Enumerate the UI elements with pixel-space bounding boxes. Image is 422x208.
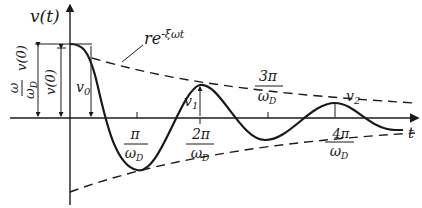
x-axis-label: t: [408, 124, 415, 142]
tick-label-pi: π ωD: [124, 126, 148, 163]
svg-text:2π: 2π: [191, 126, 211, 142]
damped-vibration-diagram: v(t) t re-ξωt ω ωD v(0) v(0) v0 v1 v2 π …: [0, 0, 422, 208]
v2-label: v2: [346, 88, 360, 106]
svg-text:v(0): v(0): [14, 45, 29, 71]
y-axis-label: v(t): [30, 6, 60, 26]
svg-text:4π: 4π: [332, 126, 350, 141]
svg-text:ω: ω: [6, 82, 21, 93]
svg-text:ωD: ωD: [125, 145, 144, 163]
outer-amplitude-label: ω ωD v(0): [6, 45, 39, 99]
svg-text:v(0): v(0): [43, 69, 58, 95]
tick-label-2pi: 2π ωD: [186, 126, 214, 163]
tick-label-4pi: 4π ωD: [325, 126, 354, 161]
svg-text:ωD: ωD: [191, 145, 210, 163]
envelope-label: re-ξωt: [144, 28, 185, 48]
lower-envelope: [70, 133, 415, 192]
svg-text:ωD: ωD: [330, 143, 349, 161]
svg-text:3π: 3π: [259, 68, 278, 84]
svg-text:π: π: [129, 126, 140, 142]
v0-label: v0: [76, 79, 91, 97]
tick-label-3pi: 3π ωD: [255, 68, 283, 106]
svg-text:ωD: ωD: [22, 81, 39, 99]
upper-envelope: [92, 58, 415, 103]
svg-text:ωD: ωD: [258, 88, 277, 106]
v1-label: v1: [184, 93, 198, 111]
inner-amplitude-label: v(0): [43, 69, 58, 95]
envelope-leader: [122, 45, 143, 62]
